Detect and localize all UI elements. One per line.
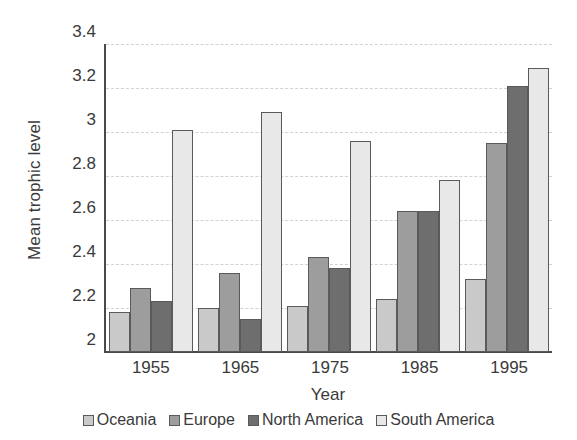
bar[interactable] bbox=[130, 288, 151, 352]
legend-swatch-icon bbox=[169, 415, 180, 426]
bar-groups bbox=[106, 44, 552, 352]
legend-swatch-icon bbox=[248, 415, 259, 426]
bar[interactable] bbox=[418, 211, 439, 352]
bar[interactable] bbox=[350, 141, 371, 352]
bar[interactable] bbox=[198, 308, 219, 352]
bar[interactable] bbox=[397, 211, 418, 352]
bar[interactable] bbox=[219, 273, 240, 352]
bar[interactable] bbox=[240, 319, 261, 352]
bar[interactable] bbox=[439, 180, 460, 352]
legend-swatch-icon bbox=[376, 415, 387, 426]
legend-item[interactable]: Oceania bbox=[83, 411, 157, 429]
bar[interactable] bbox=[261, 112, 282, 352]
bar-group bbox=[195, 44, 284, 352]
legend-item[interactable]: South America bbox=[376, 411, 494, 429]
x-axis-tick-labels: 19551965197519851995 bbox=[106, 358, 554, 378]
bar-group bbox=[374, 44, 463, 352]
bar[interactable] bbox=[172, 130, 193, 352]
bar[interactable] bbox=[287, 306, 308, 352]
x-tick-label: 1955 bbox=[106, 358, 196, 378]
bar[interactable] bbox=[308, 257, 329, 352]
legend-item[interactable]: Europe bbox=[169, 411, 235, 429]
y-tick-label: 2.8 bbox=[48, 154, 96, 174]
legend: OceaniaEuropeNorth AmericaSouth America bbox=[0, 411, 577, 429]
x-tick-label: 1975 bbox=[285, 358, 375, 378]
x-tick-label: 1965 bbox=[196, 358, 286, 378]
legend-swatch-icon bbox=[83, 415, 94, 426]
bar-group bbox=[463, 44, 552, 352]
bar-chart: Mean trophic level 22.22.42.62.833.23.4 … bbox=[0, 0, 577, 440]
plot-area bbox=[104, 44, 552, 352]
y-tick-label: 2 bbox=[48, 330, 96, 350]
bar[interactable] bbox=[376, 299, 397, 352]
bar[interactable] bbox=[465, 279, 486, 352]
bar-group bbox=[106, 44, 195, 352]
bar[interactable] bbox=[109, 312, 130, 352]
x-tick-label: 1995 bbox=[464, 358, 554, 378]
y-tick-label: 3.2 bbox=[48, 66, 96, 86]
y-tick-label: 2.2 bbox=[48, 286, 96, 306]
y-tick-label: 3 bbox=[48, 110, 96, 130]
y-tick-label: 2.6 bbox=[48, 198, 96, 218]
legend-item[interactable]: North America bbox=[248, 411, 363, 429]
legend-label: Europe bbox=[183, 411, 235, 429]
bar[interactable] bbox=[507, 86, 528, 352]
bar[interactable] bbox=[528, 68, 549, 352]
x-tick-label: 1985 bbox=[375, 358, 465, 378]
bar-group bbox=[284, 44, 373, 352]
legend-label: Oceania bbox=[97, 411, 157, 429]
legend-label: North America bbox=[262, 411, 363, 429]
y-tick-label: 3.4 bbox=[48, 22, 96, 42]
bar[interactable] bbox=[151, 301, 172, 352]
y-axis-tick-labels: 22.22.42.62.833.23.4 bbox=[48, 32, 96, 360]
x-axis-title: Year bbox=[104, 385, 552, 405]
bar[interactable] bbox=[329, 268, 350, 352]
y-axis-title: Mean trophic level bbox=[25, 60, 45, 320]
legend-label: South America bbox=[390, 411, 494, 429]
y-tick-label: 2.4 bbox=[48, 242, 96, 262]
bar[interactable] bbox=[486, 143, 507, 352]
